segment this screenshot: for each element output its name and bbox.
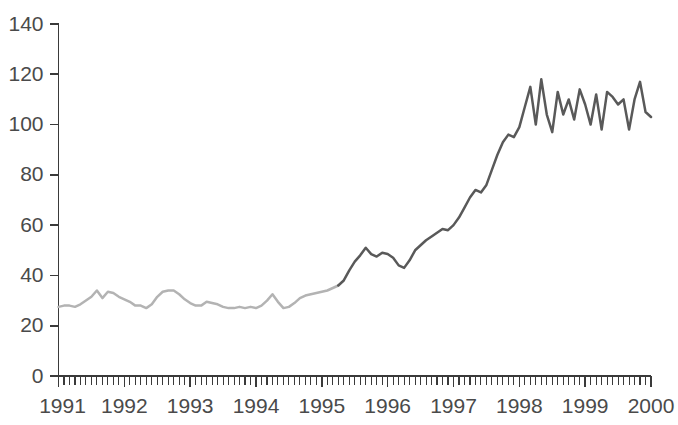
- chart-container: 020406080100120140 199119921993199419951…: [0, 0, 678, 425]
- y-tick-label: 140: [8, 12, 43, 35]
- x-tick-label: 1995: [298, 394, 345, 417]
- series-line-1: [338, 79, 651, 285]
- x-axis: 1991199219931994199519961997199819992000: [39, 376, 674, 417]
- x-tick-label: 1993: [167, 394, 214, 417]
- y-tick-label: 80: [20, 162, 43, 185]
- x-tick-label: 1994: [233, 394, 280, 417]
- line-chart: 020406080100120140 199119921993199419951…: [0, 0, 678, 425]
- y-tick-label: 60: [20, 213, 43, 236]
- series-line-0: [59, 285, 339, 308]
- y-tick-label: 40: [20, 263, 43, 286]
- x-tick-label: 1996: [364, 394, 411, 417]
- y-tick-label: 20: [20, 313, 43, 336]
- y-axis: 020406080100120140: [8, 12, 58, 387]
- x-tick-label: 1992: [101, 394, 148, 417]
- x-tick-label: 1997: [430, 394, 477, 417]
- data-series-group: [59, 79, 652, 308]
- x-tick-label: 2000: [628, 394, 675, 417]
- x-tick-label: 1999: [562, 394, 609, 417]
- x-tick-label: 1998: [496, 394, 543, 417]
- y-tick-label: 120: [8, 62, 43, 85]
- x-tick-label: 1991: [39, 394, 86, 417]
- y-tick-label: 0: [32, 364, 44, 387]
- y-tick-label: 100: [8, 112, 43, 135]
